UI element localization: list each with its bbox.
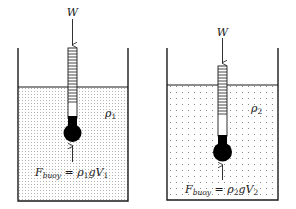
weight-label-left: W [67, 6, 80, 19]
beaker-left: W ρ1 Fbuoy = ρ1gV1 [18, 6, 128, 201]
hydrometer-bulb [213, 143, 232, 162]
weight-label-right: W [217, 26, 230, 39]
beaker-right: W ρ2 Fbuoy = ρ2gV2 [167, 26, 278, 200]
hydrometer-stem [68, 48, 77, 118]
hydrometer-bulb [64, 124, 82, 142]
buoyancy-diagram: W ρ1 Fbuoy = ρ1gV1 [0, 0, 296, 209]
hydrometer-stem [218, 66, 227, 136]
